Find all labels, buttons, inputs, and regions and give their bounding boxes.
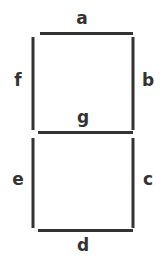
seven-segment-diagram: a b c d e f g — [0, 0, 164, 265]
seven-segment-canvas: a b c d e f g — [0, 0, 164, 265]
segment-g-label: g — [77, 107, 89, 127]
segment-c-label: c — [143, 169, 153, 189]
segment-e-label: e — [12, 169, 24, 189]
segment-a-label: a — [76, 8, 87, 28]
segment-d-label: d — [77, 235, 89, 255]
segment-b-label: b — [142, 70, 154, 90]
segment-f-label: f — [14, 70, 22, 90]
